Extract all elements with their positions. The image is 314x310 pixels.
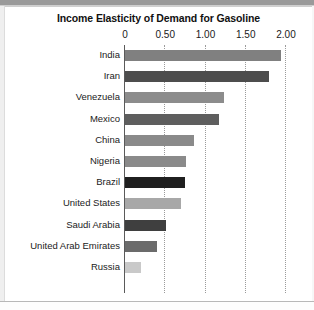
category-label: United States: [63, 197, 120, 209]
bar-row: United States: [5, 194, 312, 215]
x-axis-tick-0-50: 0.50: [156, 29, 175, 40]
x-axis-tick-1-50: 1.50: [236, 29, 255, 40]
bar-iran: [125, 71, 269, 82]
bar-row: Brazil: [5, 173, 312, 194]
chart-title: Income Elasticity of Demand for Gasoline: [5, 12, 312, 24]
bar-row: Russia: [5, 258, 312, 279]
bar-brazil: [125, 177, 185, 188]
bar-row: Mexico: [5, 110, 312, 131]
x-axis-tick-0: 0: [122, 29, 128, 40]
bar-mexico: [125, 114, 219, 125]
bar-united-states: [125, 198, 181, 209]
category-label: Mexico: [90, 113, 120, 125]
category-label: Venezuela: [76, 91, 120, 103]
bar-row: Venezuela: [5, 88, 312, 109]
bar-row: Saudi Arabia: [5, 216, 312, 237]
x-axis-tick-2-00: 2.00: [276, 29, 295, 40]
category-label: United Arab Emirates: [30, 240, 120, 252]
x-axis-tick-1-00: 1.00: [196, 29, 215, 40]
plot-area: IndiaIranVenezuelaMexicoChinaNigeriaBraz…: [5, 45, 312, 295]
page-edge-right: [312, 6, 314, 310]
category-label: Nigeria: [90, 155, 120, 167]
category-label: Russia: [91, 261, 120, 273]
bar-row: Iran: [5, 67, 312, 88]
bar-row: China: [5, 131, 312, 152]
category-label: Iran: [104, 70, 120, 82]
bar-row: India: [5, 46, 312, 67]
bar-india: [125, 50, 281, 61]
category-label: Saudi Arabia: [66, 219, 120, 231]
bar-russia: [125, 262, 141, 273]
category-label: Brazil: [96, 176, 120, 188]
category-label: India: [99, 49, 120, 61]
bar-saudi-arabia: [125, 220, 166, 231]
chart-area: Income Elasticity of Demand for Gasoline…: [5, 7, 312, 301]
x-axis-tick-labels: 00.501.001.502.00: [5, 29, 312, 43]
page-edge-bottom: [0, 302, 314, 310]
bar-row: Nigeria: [5, 152, 312, 173]
bar-venezuela: [125, 92, 224, 103]
bar-united-arab-emirates: [125, 241, 157, 252]
chart-figure: Income Elasticity of Demand for Gasoline…: [0, 0, 314, 310]
bar-nigeria: [125, 156, 186, 167]
category-label: China: [95, 134, 120, 146]
bar-china: [125, 135, 194, 146]
bar-row: United Arab Emirates: [5, 237, 312, 258]
